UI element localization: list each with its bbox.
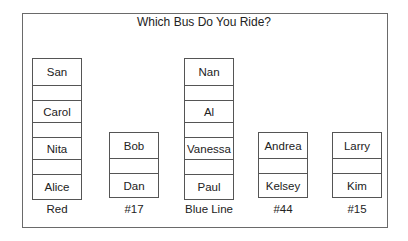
column-17: Bob Dan xyxy=(109,132,159,198)
rider-cell: Nan xyxy=(185,59,233,86)
spacer-cell xyxy=(185,160,233,175)
spacer-cell xyxy=(259,159,307,174)
category-label-44: #44 xyxy=(248,203,318,215)
spacer-cell xyxy=(333,159,381,174)
rider-cell: Carol xyxy=(33,101,81,123)
spacer-cell xyxy=(185,86,233,101)
column-red: San Carol Nita Alice xyxy=(32,58,82,200)
category-label-red: Red xyxy=(22,203,92,215)
rider-cell: Larry xyxy=(333,133,381,159)
column-blue-line: Nan Al Vanessa Paul xyxy=(184,58,234,200)
rider-cell: Kelsey xyxy=(259,174,307,198)
spacer-cell xyxy=(110,159,158,174)
chart-title: Which Bus Do You Ride? xyxy=(0,15,408,29)
spacer-cell xyxy=(33,123,81,138)
spacer-cell xyxy=(185,123,233,138)
rider-cell: Alice xyxy=(33,175,81,200)
rider-cell: San xyxy=(33,59,81,86)
rider-cell: Vanessa xyxy=(185,138,233,160)
column-44: Andrea Kelsey xyxy=(258,132,308,198)
category-label-17: #17 xyxy=(99,203,169,215)
column-15: Larry Kim xyxy=(332,132,382,198)
rider-cell: Paul xyxy=(185,175,233,200)
rider-cell: Kim xyxy=(333,174,381,198)
category-label-blue-line: Blue Line xyxy=(174,203,244,215)
rider-cell: Andrea xyxy=(259,133,307,159)
rider-cell: Dan xyxy=(110,174,158,198)
rider-cell: Nita xyxy=(33,138,81,160)
rider-cell: Bob xyxy=(110,133,158,159)
rider-cell: Al xyxy=(185,101,233,123)
category-label-15: #15 xyxy=(322,203,392,215)
spacer-cell xyxy=(33,160,81,175)
spacer-cell xyxy=(33,86,81,101)
